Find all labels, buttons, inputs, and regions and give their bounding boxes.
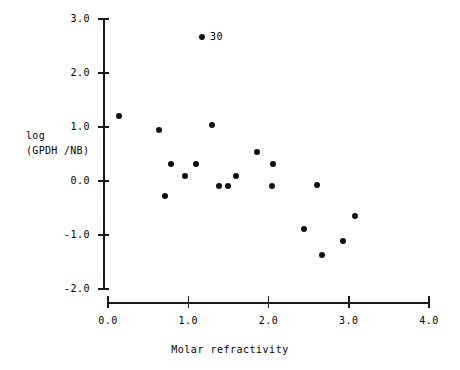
data-point: [340, 238, 346, 244]
data-point-label: 30: [210, 32, 223, 42]
scatter-plot-figure: 3.02.01.00.0-1.0-2.0 0.01.02.03.04.0 log…: [0, 0, 460, 370]
x-tick-mark: [188, 296, 190, 308]
x-tick-mark: [268, 296, 270, 308]
y-tick-label: -2.0: [40, 284, 90, 294]
y-tick-mark: [98, 234, 109, 236]
x-axis-label: Molar refractivity: [0, 344, 460, 355]
y-tick-mark: [98, 180, 109, 182]
data-point: [116, 113, 122, 119]
data-point: [233, 173, 239, 179]
x-tick-mark: [107, 296, 109, 308]
x-tick-mark: [428, 296, 430, 308]
x-tick-mark: [348, 296, 350, 308]
y-tick-mark: [98, 126, 109, 128]
y-axis-line: [103, 19, 105, 289]
y-tick-mark: [98, 288, 109, 290]
y-axis-label: log (GPDH /NB): [26, 128, 89, 158]
x-tick-label: 1.0: [163, 316, 213, 326]
x-tick-label: 0.0: [83, 316, 133, 326]
y-tick-label: 3.0: [40, 14, 90, 24]
data-point: [269, 183, 275, 189]
y-axis-label-line-1: log: [26, 128, 89, 143]
y-tick-mark: [98, 72, 109, 74]
x-tick-label: 3.0: [324, 316, 374, 326]
data-point: [199, 34, 205, 40]
data-point: [182, 173, 188, 179]
data-point: [168, 161, 174, 167]
data-point: [270, 161, 276, 167]
data-point: [301, 226, 307, 232]
data-point: [254, 149, 260, 155]
data-point: [162, 193, 168, 199]
y-axis-label-line-2: (GPDH /NB): [26, 143, 89, 158]
y-tick-label: 2.0: [40, 68, 90, 78]
data-point: [352, 213, 358, 219]
data-point: [193, 161, 199, 167]
y-tick-label: -1.0: [40, 230, 90, 240]
data-point: [156, 127, 162, 133]
data-point: [209, 122, 215, 128]
y-tick-mark: [98, 18, 109, 20]
data-point: [225, 183, 231, 189]
data-point: [314, 182, 320, 188]
x-tick-label: 4.0: [404, 316, 454, 326]
data-point: [216, 183, 222, 189]
y-tick-label: 0.0: [40, 176, 90, 186]
x-tick-label: 2.0: [244, 316, 294, 326]
data-point: [319, 252, 325, 258]
